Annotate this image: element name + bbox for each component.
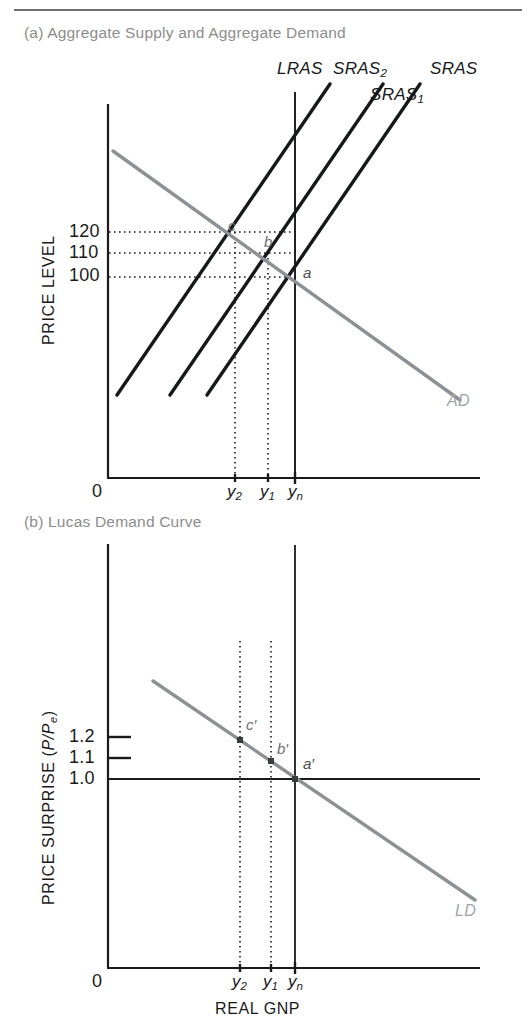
panel-b-origin-label: 0 (92, 971, 102, 992)
point-label-b-prime: b′ (277, 740, 288, 757)
point-marker-b-prime (268, 758, 274, 764)
economics-figure: (a) Aggregate Supply and Aggregate Deman… (0, 0, 531, 1036)
panel-b-x-axis-title: REAL GNP (215, 1000, 300, 1018)
curve-label-ld: LD (455, 902, 476, 920)
panel-b-ytick-1-1: 1.1 (69, 747, 95, 768)
panel-b-xtick-label-y2: y2 (232, 972, 247, 992)
point-label-a-prime: a′ (303, 755, 314, 772)
point-label-c-prime: c′ (246, 716, 256, 733)
curve-ld (153, 681, 475, 900)
panel-b-ytick-1-0: 1.0 (69, 768, 95, 789)
panel-b-xtick-label-yn: yn (288, 972, 303, 992)
point-marker-c-prime (237, 737, 243, 743)
panel-b-plot (0, 0, 531, 1036)
panel-b-ytick-1-2: 1.2 (69, 726, 95, 747)
point-marker-a-prime (292, 776, 298, 782)
panel-b-y-axis-title: PRICE SURPRISE (P/Pe) (40, 710, 59, 905)
panel-b-xtick-label-y1: y1 (263, 972, 278, 992)
